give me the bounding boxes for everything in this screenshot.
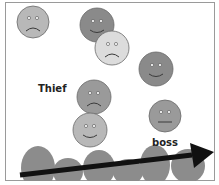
- smile-face-icon: [139, 52, 173, 86]
- diagram-canvas: [0, 0, 219, 185]
- sad-face-icon: [95, 31, 129, 65]
- thief-label: Thief: [38, 83, 67, 94]
- wave-blob: [140, 145, 170, 185]
- wave-mask: [6, 181, 214, 185]
- sad-face-icon: [17, 6, 49, 38]
- sad-face-icon: [77, 80, 111, 114]
- neutral-face-icon: [149, 100, 181, 132]
- boss-label: boss: [152, 137, 178, 148]
- smile-face-icon: [73, 113, 107, 147]
